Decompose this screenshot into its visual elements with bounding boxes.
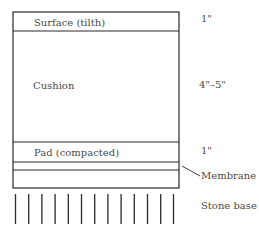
cushion-label: Cushion	[33, 80, 75, 91]
surface-thickness: 1"	[201, 13, 212, 24]
membrane-leader-line	[182, 166, 200, 176]
membrane-label: Membrane	[201, 170, 256, 181]
layer-diagram: Surface (tilth) Cushion Pad (compacted) …	[0, 0, 259, 235]
stone-base-lines	[16, 194, 174, 224]
pad-thickness: 1"	[201, 145, 212, 156]
stone-base-label: Stone base	[201, 200, 257, 211]
pad-label: Pad (compacted)	[34, 147, 119, 158]
surface-label: Surface (tilth)	[34, 17, 105, 28]
cushion-thickness: 4"–5"	[199, 79, 226, 90]
